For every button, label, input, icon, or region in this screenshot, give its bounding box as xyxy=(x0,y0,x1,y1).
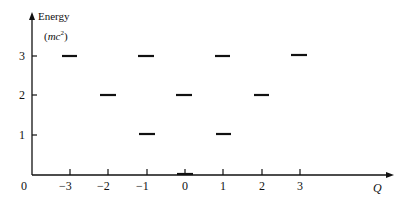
x-tick-label: −2 xyxy=(97,180,110,192)
energy-levels xyxy=(62,55,307,174)
x-axis-arrow-icon xyxy=(386,172,394,178)
y-tick-label: 2 xyxy=(19,89,25,101)
x-tick-label: 2 xyxy=(259,180,265,192)
y-tick-label: 1 xyxy=(19,129,25,141)
y-axis-arrow-icon xyxy=(29,12,35,20)
x-tick-label: 1 xyxy=(220,180,226,192)
origin-label: 0 xyxy=(21,180,27,192)
x-axis-title: Q xyxy=(373,182,382,194)
x-tick-label: −3 xyxy=(59,180,72,192)
x-tick-label: 0 xyxy=(182,180,188,192)
y-tick-label: 3 xyxy=(19,50,25,62)
x-tick-label: −1 xyxy=(136,180,149,192)
y-axis-title: Energy xyxy=(38,10,70,22)
x-tick-label: 3 xyxy=(297,180,303,192)
y-axis-unit: (mc2) xyxy=(44,27,68,42)
y-ticks xyxy=(32,56,37,135)
